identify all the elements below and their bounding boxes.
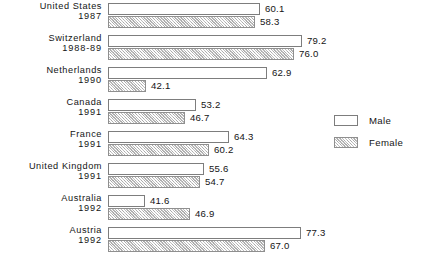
bar-female[interactable] (108, 144, 209, 156)
bar-male[interactable] (108, 195, 145, 207)
bar-value-male: 62.9 (272, 67, 291, 79)
bar-female[interactable] (108, 48, 294, 60)
bar-value-female: 67.0 (270, 240, 289, 252)
chart-row: Switzerland 1988-89 79.2 76.0 (0, 34, 422, 64)
category-country: Australia (0, 194, 102, 203)
category-country: France (0, 130, 102, 139)
bar-value-female: 42.1 (151, 80, 170, 92)
category-country: Austria (0, 226, 102, 235)
legend-swatch-male-icon (334, 115, 358, 126)
category-label: Austria 1992 (0, 226, 102, 246)
chart-row: United States 1987 60.1 58.3 (0, 2, 422, 32)
legend-item-male[interactable]: Male (334, 113, 422, 127)
bar-value-female: 54.7 (205, 176, 224, 188)
bar-value-male: 60.1 (265, 3, 284, 15)
legend-label-female: Female (369, 137, 403, 148)
bar-male[interactable] (108, 99, 196, 111)
bar-male[interactable] (108, 3, 260, 15)
bar-value-female: 46.9 (195, 208, 214, 220)
category-label: Netherlands 1990 (0, 66, 102, 86)
bar-value-female: 60.2 (214, 144, 233, 156)
bar-male[interactable] (108, 67, 267, 79)
category-country: Canada (0, 98, 102, 107)
bar-value-female: 76.0 (299, 48, 318, 60)
category-label: Switzerland 1988-89 (0, 34, 102, 54)
category-label: United States 1987 (0, 2, 102, 22)
bar-female[interactable] (108, 112, 185, 124)
category-label: Canada 1991 (0, 98, 102, 118)
chart-legend: Male Female (334, 113, 422, 157)
bar-male[interactable] (108, 131, 229, 143)
category-year: 1991 (0, 172, 102, 181)
bar-male[interactable] (108, 35, 302, 47)
bar-value-female: 46.7 (190, 112, 209, 124)
category-year: 1992 (0, 236, 102, 245)
horizontal-bar-chart: United States 1987 60.1 58.3 Switzerland… (0, 0, 422, 261)
chart-row: Australia 1992 41.6 46.9 (0, 194, 422, 224)
legend-item-female[interactable]: Female (334, 135, 422, 149)
bar-value-male: 41.6 (150, 195, 169, 207)
category-label: United Kingdom 1991 (0, 162, 102, 182)
category-year: 1992 (0, 204, 102, 213)
chart-row: Austria 1992 77.3 67.0 (0, 226, 422, 256)
bar-value-male: 53.2 (201, 99, 220, 111)
bar-value-female: 58.3 (260, 16, 279, 28)
bar-value-male: 55.6 (209, 163, 228, 175)
chart-row: Netherlands 1990 62.9 42.1 (0, 66, 422, 96)
bar-value-male: 77.3 (306, 227, 325, 239)
category-year: 1991 (0, 108, 102, 117)
bar-male[interactable] (108, 227, 301, 239)
bar-female[interactable] (108, 208, 190, 220)
bar-value-male: 79.2 (307, 35, 326, 47)
bar-female[interactable] (108, 176, 200, 188)
bar-female[interactable] (108, 240, 265, 252)
category-year: 1987 (0, 12, 102, 21)
bar-male[interactable] (108, 163, 204, 175)
category-year: 1988-89 (0, 44, 102, 53)
category-year: 1991 (0, 140, 102, 149)
category-country: Netherlands (0, 66, 102, 75)
bar-female[interactable] (108, 16, 255, 28)
category-country: Switzerland (0, 34, 102, 43)
category-year: 1990 (0, 76, 102, 85)
category-label: France 1991 (0, 130, 102, 150)
chart-row: United Kingdom 1991 55.6 54.7 (0, 162, 422, 192)
category-country: United Kingdom (0, 162, 102, 171)
category-country: United States (0, 2, 102, 11)
legend-label-male: Male (369, 115, 391, 126)
category-label: Australia 1992 (0, 194, 102, 214)
bar-value-male: 64.3 (234, 131, 253, 143)
bar-female[interactable] (108, 80, 146, 92)
legend-swatch-female-icon (334, 137, 358, 148)
